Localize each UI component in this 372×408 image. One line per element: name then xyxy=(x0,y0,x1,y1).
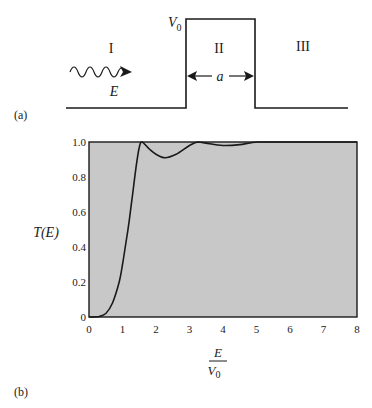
region-label-II: II xyxy=(214,41,224,56)
x-tick-label: 8 xyxy=(354,323,360,335)
y-tick-label: 0.2 xyxy=(72,276,86,288)
svg-text:E: E xyxy=(213,345,222,360)
region-label-III: III xyxy=(296,39,310,54)
barrier-width-label: a xyxy=(217,69,224,84)
x-tick-label: 0 xyxy=(86,323,92,335)
figure-canvas: V0 I II III E a (a) 00.20.40.60.81.0 012… xyxy=(0,0,372,408)
x-tick-label: 1 xyxy=(120,323,126,335)
x-tick-label: 2 xyxy=(153,323,159,335)
plot-area xyxy=(89,142,357,317)
y-tick-label: 0.4 xyxy=(72,241,86,253)
wavy-arrow-icon xyxy=(70,66,132,77)
y-axis-ticks: 00.20.40.60.81.0 xyxy=(72,136,86,323)
x-axis-label: E V0 xyxy=(208,345,227,380)
transmission-plot xyxy=(89,142,357,317)
incident-energy-label: E xyxy=(109,84,119,99)
y-tick-label: 0 xyxy=(81,311,87,323)
x-tick-label: 6 xyxy=(287,323,293,335)
svg-text:V0: V0 xyxy=(208,363,221,380)
y-axis-label: T(E) xyxy=(33,225,59,241)
barrier-profile xyxy=(66,19,348,108)
x-tick-label: 5 xyxy=(254,323,260,335)
x-tick-label: 7 xyxy=(321,323,327,335)
y-tick-label: 0.8 xyxy=(72,171,86,183)
barrier-height-label: V0 xyxy=(168,15,182,33)
panel-label-a: (a) xyxy=(14,108,27,122)
y-tick-label: 0.6 xyxy=(72,206,86,218)
panel-label-b: (b) xyxy=(14,385,28,399)
x-tick-label: 4 xyxy=(220,323,226,335)
potential-barrier-diagram xyxy=(66,19,348,108)
y-tick-label: 1.0 xyxy=(72,136,86,148)
region-label-I: I xyxy=(109,41,114,56)
x-tick-label: 3 xyxy=(187,323,193,335)
x-axis-ticks: 012345678 xyxy=(86,323,360,335)
